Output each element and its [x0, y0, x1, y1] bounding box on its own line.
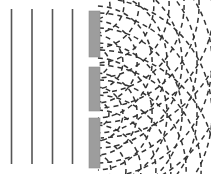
slit-barrier: [0, 0, 100, 174]
barrier-segment-bottom: [89, 118, 100, 168]
barrier-left-mask: [0, 0, 89, 174]
wave-diffraction-diagram: [0, 0, 211, 174]
diagram-canvas: [0, 0, 211, 174]
barrier-segment-middle: [89, 67, 100, 111]
barrier-segment-top: [89, 11, 100, 57]
